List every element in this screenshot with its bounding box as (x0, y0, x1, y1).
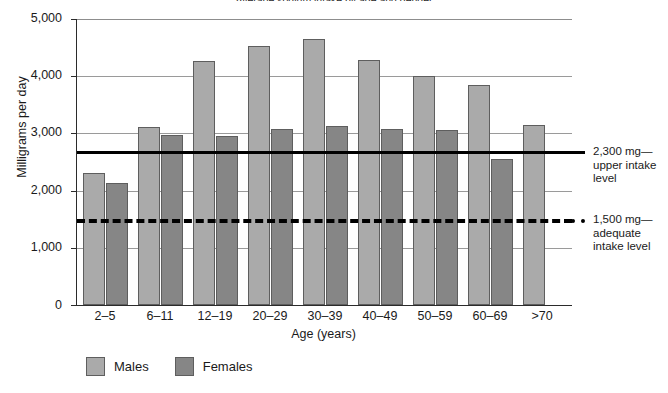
bar-male-30-39[interactable] (303, 39, 325, 305)
ref-1500-line1: 1,500 mg— (593, 213, 668, 227)
bar-male-12-19[interactable] (193, 61, 215, 305)
y-tick-5000: 5,000 (31, 12, 62, 24)
x-tick-6-11: 6–11 (147, 309, 174, 323)
y-tick-1000: 1,000 (31, 241, 62, 253)
reference-stub-2300 (571, 151, 585, 154)
legend-item-females[interactable]: Females (175, 357, 253, 376)
legend-label-females: Females (203, 359, 253, 374)
x-tick-2-5: 2–5 (95, 309, 116, 323)
bar-female-60-69[interactable] (491, 159, 513, 305)
y-tick-3000: 3,000 (31, 126, 62, 138)
x-axis-title: Age (years) (76, 327, 571, 341)
bar-male-20-29[interactable] (248, 46, 270, 305)
ref-1500-line3: intake level (593, 240, 668, 254)
y-axis-tick-labels: 5,000 4,000 3,000 2,000 1,000 0 (0, 19, 70, 305)
ref-2300-line1: 2,300 mg— (593, 145, 668, 159)
bar-male-60-69[interactable] (468, 85, 490, 305)
x-tick-30-39: 30–39 (308, 309, 343, 323)
bar-female-20-29[interactable] (271, 129, 293, 305)
reference-label-1500-adequate-intake: 1,500 mg— adequate intake level (593, 213, 668, 254)
bar-male-40-49[interactable] (358, 60, 380, 305)
reference-line-2300-upper-intake (77, 151, 572, 154)
bar-male-2-5[interactable] (83, 173, 105, 305)
x-tick-12-19: 12–19 (198, 309, 233, 323)
x-tick-50-59: 50–59 (418, 309, 453, 323)
y-axis-tick-0 (71, 305, 77, 306)
sodium-intake-bar-chart: Average sodium intake by age and gender … (0, 0, 668, 393)
bar-male-50-59[interactable] (413, 76, 435, 305)
y-tick-4000: 4,000 (31, 69, 62, 81)
ref-2300-line3: level (593, 172, 668, 186)
reference-line-1500-adequate-intake (77, 219, 572, 223)
y-axis-title: Milligrams per day (15, 0, 29, 267)
ref-2300-line2: upper intake (593, 159, 668, 173)
chart-title: Average sodium intake by age and gender (0, 0, 668, 1)
x-tick-40-49: 40–49 (363, 309, 398, 323)
chart-legend: Males Females (86, 357, 253, 376)
plot-area (76, 19, 572, 306)
legend-swatch-males-icon (86, 357, 105, 376)
bar-female-2-5[interactable] (106, 183, 128, 305)
ref-1500-line2: adequate (593, 227, 668, 241)
legend-label-males: Males (114, 359, 149, 374)
reference-stub-1500 (571, 219, 585, 223)
y-tick-2000: 2,000 (31, 184, 62, 196)
x-tick-20-29: 20–29 (253, 309, 288, 323)
bar-series-container (77, 19, 572, 305)
legend-swatch-females-icon (175, 357, 194, 376)
legend-item-males[interactable]: Males (86, 357, 149, 376)
bar-female-50-59[interactable] (436, 130, 458, 305)
x-tick-60-69: 60–69 (473, 309, 508, 323)
y-tick-0: 0 (55, 299, 62, 311)
x-axis-tick-labels: 2–5 6–11 12–19 20–29 30–39 40–49 50–59 6… (76, 309, 571, 325)
bar-female-40-49[interactable] (381, 129, 403, 305)
reference-label-2300-upper-intake: 2,300 mg— upper intake level (593, 145, 668, 186)
x-tick-over-70: >70 (531, 309, 552, 323)
